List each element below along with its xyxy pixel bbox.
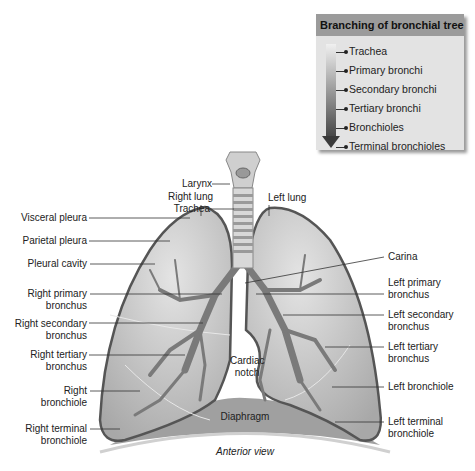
legend-item-terminal-bronchioles: Terminal bronchioles <box>336 139 445 153</box>
label-parietal-pleura: Parietal pleura <box>23 235 87 247</box>
pointer-icon <box>336 52 346 53</box>
caption-anterior-view: Anterior view <box>205 446 285 458</box>
label-visceral-pleura: Visceral pleura <box>21 212 87 224</box>
pointer-icon <box>336 109 346 110</box>
legend-item-primary-bronchi: Primary bronchi <box>336 63 423 77</box>
label-left-terminal-bronchiole: Left terminal bronchiole <box>388 416 443 440</box>
label-right-lung: Right lung <box>168 191 213 203</box>
label-right-primary-bronchus: Right primary bronchus <box>28 288 87 312</box>
label-right-tertiary-bronchus: Right tertiary bronchus <box>30 349 87 373</box>
gradient-arrow-shaft <box>326 44 336 138</box>
legend-item-tertiary-bronchi: Tertiary bronchi <box>336 101 421 115</box>
trachea-rings <box>233 194 253 253</box>
label-right-terminal-bronchiole: Right terminal bronchiole <box>25 423 87 447</box>
pointer-icon <box>336 128 346 129</box>
label-right-secondary-bronchus: Right secondary bronchus <box>15 318 87 342</box>
label-diaphragm: Diaphragm <box>215 411 275 423</box>
legend-item-bronchioles: Bronchioles <box>336 120 404 134</box>
pointer-icon <box>336 147 346 148</box>
label-left-primary-bronchus: Left primary bronchus <box>388 277 441 301</box>
label-larynx: Larynx <box>182 178 212 190</box>
branching-legend: Branching of bronchial tree Trachea Prim… <box>316 14 464 150</box>
label-trachea: Trachea <box>174 203 210 215</box>
label-left-tertiary-bronchus: Left tertiary bronchus <box>388 341 438 365</box>
label-left-lung: Left lung <box>268 192 306 204</box>
legend-title: Branching of bronchial tree <box>316 14 464 36</box>
label-pleural-cavity: Pleural cavity <box>28 258 87 270</box>
label-left-secondary-bronchus: Left secondary bronchus <box>388 309 454 333</box>
legend-item-trachea: Trachea <box>336 44 387 58</box>
label-left-bronchiole: Left bronchiole <box>388 381 454 393</box>
label-right-bronchiole: Right bronchiole <box>41 385 87 409</box>
pointer-icon <box>336 71 346 72</box>
legend-item-secondary-bronchi: Secondary bronchi <box>336 82 437 96</box>
trachea <box>233 188 253 268</box>
pointer-icon <box>336 90 346 91</box>
label-carina: Carina <box>388 251 417 263</box>
label-cardiac-notch: Cardiac notch <box>230 355 264 379</box>
